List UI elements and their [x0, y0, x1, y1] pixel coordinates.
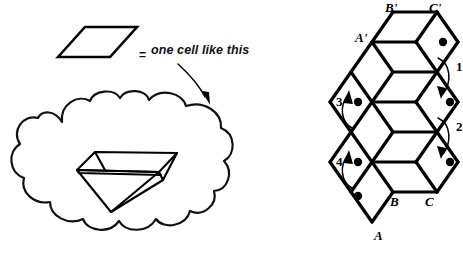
vertex-label-b: B — [390, 194, 399, 210]
vertex-label-a: A — [374, 228, 383, 244]
step-label-2: 2 — [456, 119, 463, 135]
vertex-dot — [439, 38, 447, 46]
vertex-dot — [446, 98, 454, 106]
lattice-edges — [330, 12, 458, 222]
vertex-dot — [354, 98, 362, 106]
step-arrow-3-head — [343, 90, 353, 104]
step-label-1: 1 — [456, 59, 463, 75]
step-label-4: 4 — [336, 154, 343, 170]
vertex-label-a-prime: A' — [355, 30, 367, 46]
vertex-label-c: C — [425, 194, 434, 210]
step-label-3: 3 — [336, 94, 343, 110]
vertex-label-c-prime: C' — [429, 0, 441, 16]
rhombus-strip-lattice — [0, 0, 463, 253]
vertex-dot — [446, 158, 454, 166]
vertex-dot — [354, 192, 362, 200]
step-arrow-4-head — [343, 150, 353, 164]
figure-canvas: = one cell like this — [0, 0, 463, 253]
vertex-label-b-prime: B' — [385, 0, 397, 16]
vertex-dot — [354, 158, 362, 166]
